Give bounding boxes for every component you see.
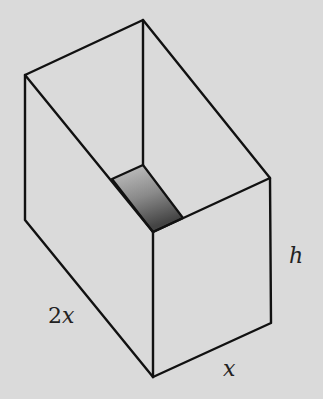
box-diagram: h 2x x bbox=[0, 0, 323, 399]
length-label-coeff: 2 bbox=[48, 303, 62, 328]
length-label: 2x bbox=[48, 303, 75, 328]
height-label: h bbox=[289, 243, 303, 268]
width-label: x bbox=[223, 356, 236, 381]
left-face-outline bbox=[25, 75, 153, 377]
length-label-var: x bbox=[62, 303, 75, 328]
